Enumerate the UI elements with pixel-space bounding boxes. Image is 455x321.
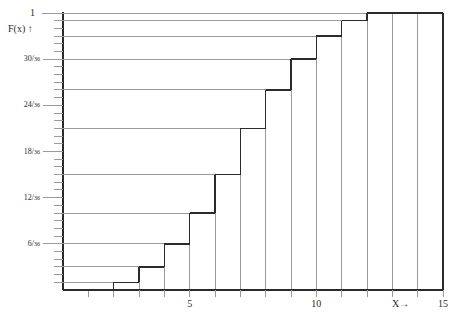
y-tick-label: 30/36 [2,55,40,63]
x-tick-label: 5 [180,299,200,309]
y-tick-numerator: 30 [24,54,32,63]
y-tick-label: 6/36 [2,240,40,248]
y-tick-denominator: 36 [34,195,40,201]
x-tick-label: 10 [306,299,326,309]
plot-canvas [0,0,455,321]
y-tick-label: 24/36 [2,101,40,109]
y-tick-numerator: 18 [24,147,32,156]
x-axis-title: X→ [392,299,409,309]
y-tick-denominator: 36 [34,241,40,247]
x-tick-label: 15 [433,299,453,309]
y-axis-top-label: 1 [30,8,35,18]
y-tick-denominator: 36 [34,102,40,108]
y-tick-numerator: 12 [24,193,32,202]
y-tick-label: 18/36 [2,148,40,156]
y-tick-numerator: 24 [24,100,32,109]
y-axis-title: F(x) ↑ [8,24,33,34]
y-tick-label: 12/36 [2,194,40,202]
y-tick-denominator: 36 [34,149,40,155]
y-tick-denominator: 36 [34,56,40,62]
figure-cdf-two-dice: 1 F(x) ↑ 30/3624/3618/3612/366/36 51015 … [0,0,455,321]
